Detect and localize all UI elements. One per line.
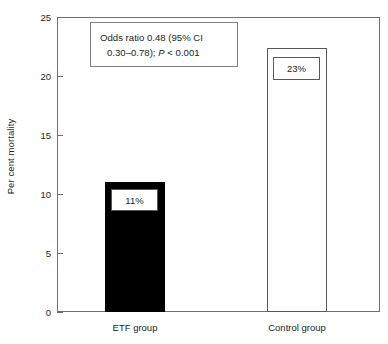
y-tick-0 [57, 312, 63, 313]
y-tick-5 [57, 253, 63, 254]
bar-value-text-etf-group: 11% [125, 195, 143, 206]
bar-value-label-control-group: 23% [273, 57, 320, 80]
bar-chart-figure: Per cent mortality 0 5 10 15 20 25 11% 2… [0, 0, 388, 344]
y-tick-10 [57, 194, 63, 195]
bar-value-label-etf-group: 11% [111, 189, 158, 211]
y-axis-title: Per cent mortality [2, 0, 20, 312]
bar-control-group [267, 48, 327, 312]
y-tick-label-10: 10 [22, 189, 51, 200]
y-tick-25 [57, 17, 63, 18]
y-axis-title-text: Per cent mortality [6, 118, 17, 194]
y-tick-label-20: 20 [22, 71, 51, 82]
y-tick-15 [57, 135, 63, 136]
statistics-annotation-box: Odds ratio 0.48 (95% CI 0.30–0.78); P < … [90, 22, 238, 67]
y-tick-20 [57, 76, 63, 77]
bar-value-text-control-group: 23% [287, 63, 306, 74]
y-tick-label-25: 25 [22, 12, 51, 23]
annotation-p-value: < 0.001 [165, 47, 200, 58]
annotation-ci-text: 0.30–0.78); [107, 47, 158, 58]
y-tick-label-15: 15 [22, 130, 51, 141]
annotation-line-2: 0.30–0.78); P < 0.001 [100, 45, 229, 60]
y-tick-label-0: 0 [22, 307, 51, 318]
x-category-label-etf-group: ETF group [113, 322, 158, 333]
x-category-label-control-group: Control group [268, 322, 326, 333]
y-tick-label-5: 5 [22, 248, 51, 259]
annotation-line-1: Odds ratio 0.48 (95% CI [100, 30, 229, 45]
